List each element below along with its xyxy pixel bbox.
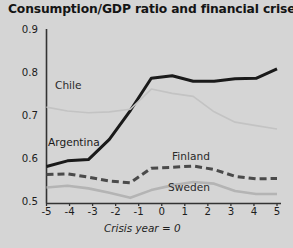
- y-tick-label: 0.8: [12, 67, 38, 78]
- x-tick-label: 4: [245, 206, 263, 217]
- x-tick-label: 5: [268, 206, 286, 217]
- series-label-chile: Chile: [55, 79, 82, 91]
- series-label-argentina: Argentina: [48, 136, 100, 148]
- series-line-finland: [47, 166, 278, 183]
- series-label-sweden: Sweden: [168, 181, 210, 193]
- x-tick-label: -1: [130, 206, 148, 217]
- x-axis-title: Crisis year = 0: [104, 222, 181, 234]
- series-line-chile: [47, 89, 278, 129]
- x-tick-label: -5: [38, 206, 56, 217]
- y-tick-label: 0.6: [12, 153, 38, 164]
- x-tick-label: 0: [153, 206, 171, 217]
- x-tick-label: 3: [222, 206, 240, 217]
- y-tick-label: 0.7: [12, 110, 38, 121]
- chart-figure: Consumption/GDP ratio and financial cris…: [0, 0, 293, 248]
- x-tick-label: 2: [199, 206, 217, 217]
- y-tick-label: 0.5: [12, 196, 38, 207]
- x-tick-label: -2: [107, 206, 125, 217]
- x-tick-label: -3: [84, 206, 102, 217]
- x-tick-label: -4: [61, 206, 79, 217]
- series-line-sweden: [47, 182, 278, 198]
- series-label-finland: Finland: [172, 150, 210, 162]
- y-tick-label: 0.9: [12, 24, 38, 35]
- x-tick-label: 1: [176, 206, 194, 217]
